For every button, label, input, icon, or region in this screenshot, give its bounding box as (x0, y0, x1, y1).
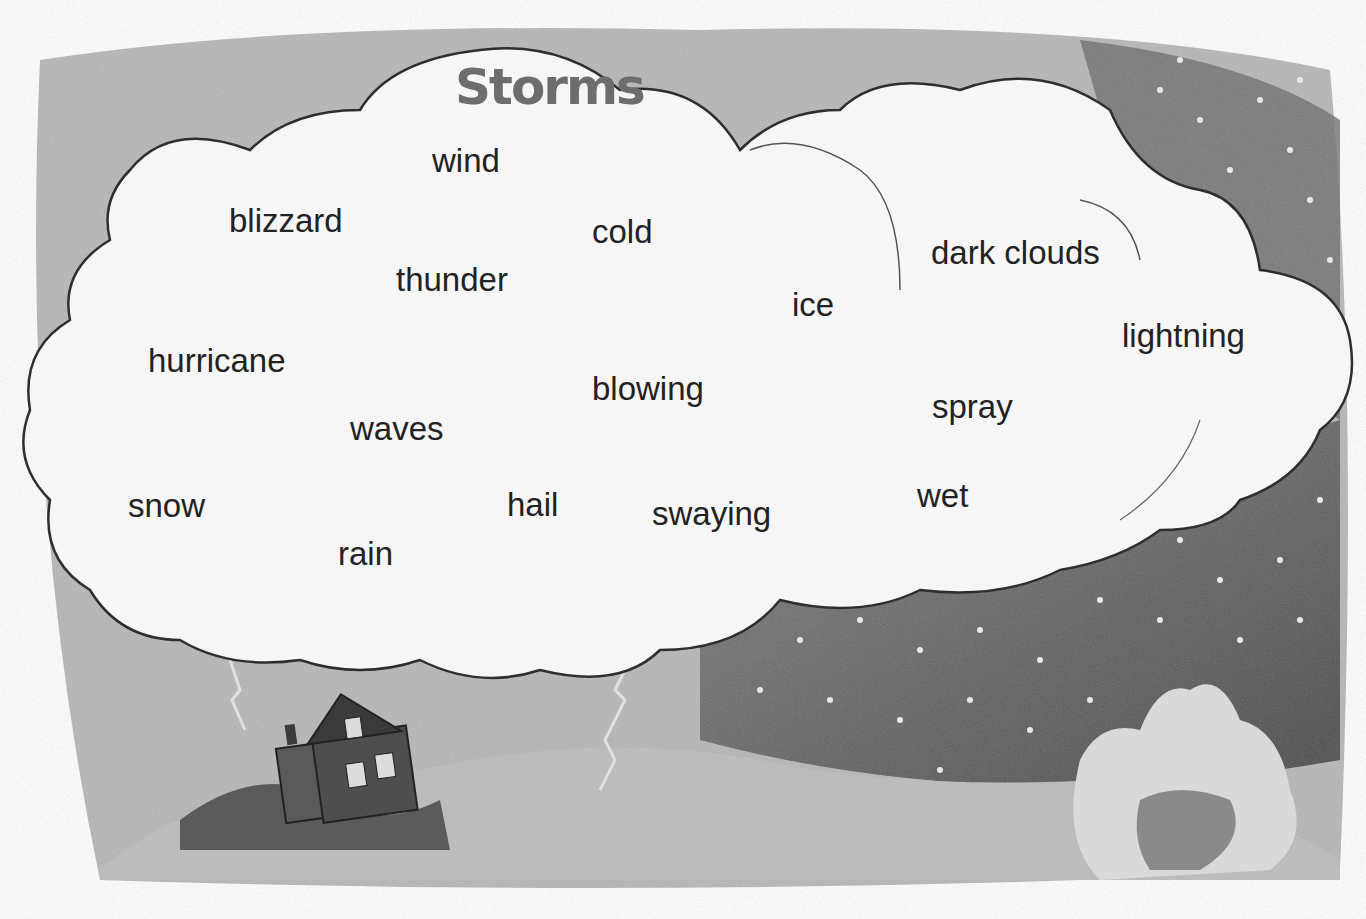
vocab-word-cold: cold (592, 213, 653, 251)
vocab-word-dark-clouds: dark clouds (931, 234, 1100, 272)
vocab-word-swaying: swaying (652, 495, 771, 533)
vocab-word-hail: hail (507, 486, 558, 524)
vocab-word-ice: ice (792, 286, 834, 324)
vocab-word-rain: rain (338, 535, 393, 573)
storm-illustration: Storms windblizzardcoldthunderdark cloud… (0, 0, 1366, 919)
vocab-word-hurricane: hurricane (148, 342, 286, 380)
vocab-word-wind: wind (432, 142, 500, 180)
vocab-word-snow: snow (128, 487, 205, 525)
vocab-word-lightning: lightning (1122, 317, 1245, 355)
storm-scene-graphic (0, 0, 1366, 919)
vocab-word-wet: wet (917, 477, 968, 515)
vocab-word-blizzard: blizzard (229, 202, 343, 240)
vocab-word-waves: waves (350, 410, 444, 448)
vocab-word-blowing: blowing (592, 370, 704, 408)
title: Storms (455, 58, 644, 116)
vocab-word-spray: spray (932, 388, 1013, 426)
vocab-word-thunder: thunder (396, 261, 508, 299)
